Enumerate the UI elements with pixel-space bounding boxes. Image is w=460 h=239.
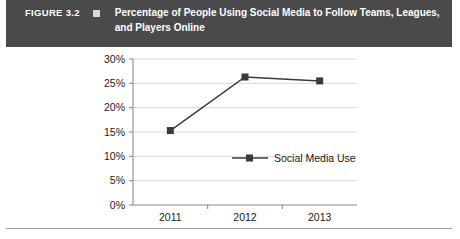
y-tick-label: 30% (104, 53, 125, 65)
series-markers-social-media-use (167, 74, 323, 135)
chart-container: 0%5%10%15%20%25%30% 201120122013 Social … (0, 47, 460, 222)
square-bullet-icon (93, 10, 100, 17)
y-tick-label: 15% (104, 126, 125, 138)
x-axis-ticks (208, 205, 283, 209)
data-point-marker (167, 127, 174, 134)
x-axis-tick-labels: 201120122013 (159, 211, 331, 222)
data-point-marker (242, 74, 249, 81)
figure-number-label: FIGURE 3.2 (25, 5, 80, 20)
series-line-social-media-use (170, 77, 319, 131)
y-tick-label: 5% (110, 174, 125, 186)
figure-bottom-rule (6, 228, 452, 229)
x-tick-label: 2013 (308, 211, 332, 222)
x-tick-label: 2011 (159, 211, 182, 222)
y-tick-label: 20% (104, 101, 125, 113)
data-point-marker (316, 77, 323, 84)
y-axis-ticks (129, 59, 133, 205)
figure-title: Percentage of People Using Social Media … (115, 5, 444, 35)
figure-header-bar: FIGURE 3.2 Percentage of People Using So… (6, 0, 452, 47)
y-tick-label: 0% (110, 199, 125, 211)
line-chart: 0%5%10%15%20%25%30% 201120122013 Social … (0, 47, 460, 222)
legend-marker-icon (246, 155, 253, 162)
y-tick-label: 10% (104, 150, 125, 162)
y-tick-label: 25% (104, 77, 125, 89)
legend-label-social-media-use: Social Media Use (274, 152, 356, 164)
chart-legend: Social Media Use (232, 152, 356, 164)
y-axis-tick-labels: 0%5%10%15%20%25%30% (104, 53, 125, 211)
x-tick-label: 2012 (233, 211, 257, 222)
